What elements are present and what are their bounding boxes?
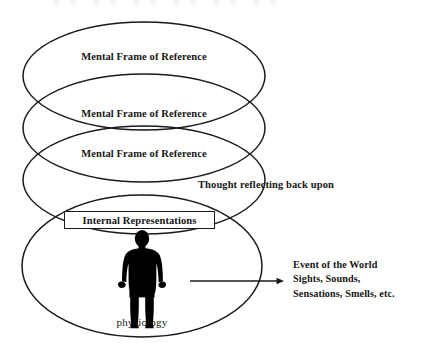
event-arrow: [190, 278, 284, 285]
event-of-the-world-block: Event of the World Sights, Sounds, Sensa…: [293, 258, 395, 301]
frame-label-2: Mental Frame of Reference: [81, 108, 207, 120]
internal-representations-label: Internal Representations: [83, 215, 197, 226]
frame-ellipse-2: [23, 74, 265, 182]
diagram-canvas: Mental Frame of Reference Mental Frame o…: [0, 0, 422, 351]
event-line-3: Sensations, Smells, etc.: [293, 287, 395, 301]
event-line-2: Sights, Sounds,: [293, 272, 395, 286]
frame-label-3: Mental Frame of Reference: [81, 148, 207, 160]
human-figure-icon: [118, 230, 166, 328]
physiology-label: physiology: [117, 316, 168, 328]
internal-representations-box: Internal Representations: [64, 211, 215, 229]
thought-reflecting-label: Thought reflecting back upon: [198, 179, 334, 191]
event-line-1: Event of the World: [293, 258, 395, 272]
frame-label-1: Mental Frame of Reference: [81, 51, 207, 63]
